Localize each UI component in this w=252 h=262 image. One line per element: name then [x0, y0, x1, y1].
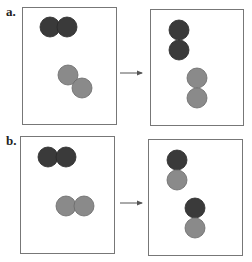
- light-particle: [185, 218, 205, 238]
- diagram-canvas: [0, 0, 252, 262]
- light-particle: [56, 196, 76, 216]
- dark-particle: [57, 17, 77, 37]
- dark-particle: [56, 147, 76, 167]
- panel-b-before: [21, 137, 115, 254]
- dark-particle: [38, 147, 58, 167]
- dark-particle: [185, 198, 205, 218]
- dark-particle: [169, 20, 189, 40]
- light-particle: [187, 68, 207, 88]
- light-particle: [74, 196, 94, 216]
- dark-particle: [167, 150, 187, 170]
- dark-particle: [169, 40, 189, 60]
- light-particle: [72, 78, 92, 98]
- panel-b-after: [149, 140, 243, 256]
- light-particle: [167, 170, 187, 190]
- panel-a-after: [151, 10, 244, 126]
- light-particle: [187, 88, 207, 108]
- panel-a-before: [23, 8, 117, 125]
